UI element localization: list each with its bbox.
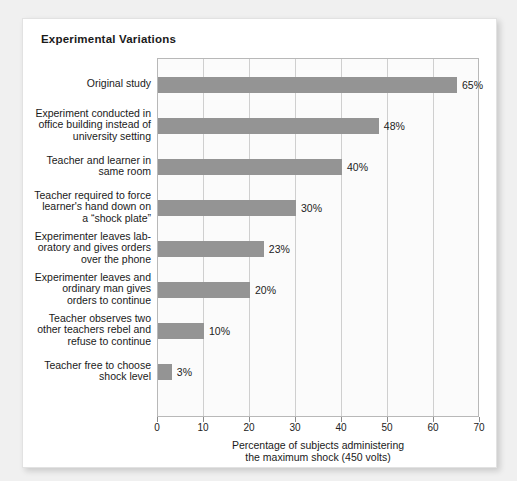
bar-row: 48% — [158, 106, 480, 147]
bar — [158, 364, 172, 380]
tick-label-70: 70 — [473, 422, 484, 433]
category-label: Experiment conducted in office building … — [23, 108, 151, 143]
bar — [158, 241, 264, 257]
bar-value-label: 10% — [204, 323, 230, 339]
category-label: Teacher free to choose shock level — [23, 360, 151, 383]
category-label: Teacher required to force learner's hand… — [23, 190, 151, 225]
bar — [158, 282, 250, 298]
category-label: Original study — [23, 78, 151, 90]
bar-value-label: 40% — [342, 159, 368, 175]
bar-row: 20% — [158, 270, 480, 311]
category-label: Teacher observes two other teachers rebe… — [23, 313, 151, 348]
x-axis-label: Percentage of subjects administering the… — [157, 439, 479, 463]
bar — [158, 200, 296, 216]
bar — [158, 159, 342, 175]
tick-label-10: 10 — [197, 422, 208, 433]
bar-value-label: 20% — [250, 282, 276, 298]
bar-row: 30% — [158, 188, 480, 229]
bar-row: 40% — [158, 147, 480, 188]
bar-value-label: 23% — [264, 241, 290, 257]
plot-area: 65%48%40%30%23%20%10%3% — [157, 58, 479, 417]
bar — [158, 323, 204, 339]
category-label: Experimenter leaves lab- oratory and giv… — [23, 231, 151, 266]
bar-row: 3% — [158, 352, 480, 393]
bar-chart: 65%48%40%30%23%20%10%3% 010203040506070 … — [23, 19, 498, 469]
tick-label-50: 50 — [381, 422, 392, 433]
bar-value-label: 30% — [296, 200, 322, 216]
bar-value-label: 65% — [457, 77, 483, 93]
tick-label-40: 40 — [335, 422, 346, 433]
tick-label-0: 0 — [154, 422, 160, 433]
bar-value-label: 3% — [172, 364, 192, 380]
category-label: Experimenter leaves and ordinary man giv… — [23, 272, 151, 307]
bar-row: 10% — [158, 311, 480, 352]
category-label: Teacher and learner in same room — [23, 155, 151, 178]
bar-row: 23% — [158, 229, 480, 270]
bar — [158, 118, 379, 134]
bar-value-label: 48% — [379, 118, 405, 134]
tick-label-30: 30 — [289, 422, 300, 433]
bar — [158, 77, 457, 93]
chart-card: Experimental Variations 65%48%40%30%23%2… — [22, 18, 497, 468]
bar-row: 65% — [158, 65, 480, 106]
tick-label-20: 20 — [243, 422, 254, 433]
tick-label-60: 60 — [427, 422, 438, 433]
